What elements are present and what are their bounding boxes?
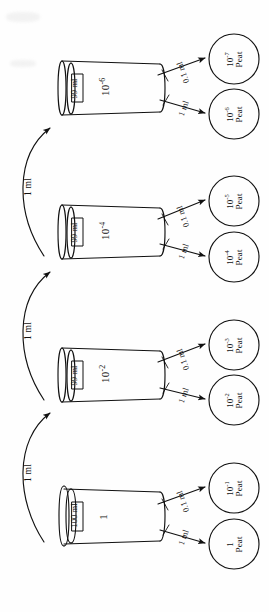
dish-label-6: 10-5 Peat bbox=[226, 180, 245, 222]
dish-label-3: 10-2 Peat bbox=[226, 379, 245, 421]
dish-label-2: 10-1 Peat bbox=[226, 467, 245, 509]
transfer-label-3: 1 ml bbox=[24, 178, 34, 196]
flask-concentration-1: 1 bbox=[98, 514, 110, 520]
dish-label-4: 10-3 Peat bbox=[226, 324, 245, 366]
serial-dilution-figure: 10-6 99 ml 10-4 99 ml 10-2 99 ml 1 100 m… bbox=[0, 0, 269, 612]
flask-concentration-2: 10-2 bbox=[100, 365, 112, 383]
flask-concentration-4: 10-6 bbox=[100, 78, 112, 96]
diagram-canvas bbox=[0, 0, 269, 612]
transfer-label-2: 1 ml bbox=[24, 322, 34, 340]
dish-label-1: 1 Peat bbox=[226, 523, 245, 565]
dish-label-8: 10-7 Peat bbox=[226, 38, 245, 80]
flask-volume-2: 99 ml bbox=[70, 365, 79, 385]
flask-volume-4: 99 ml bbox=[70, 78, 79, 98]
dish-label-7: 10-6 Peat bbox=[226, 93, 245, 135]
flask-volume-3: 99 ml bbox=[70, 222, 79, 242]
dish-label-5: 10-4 Peat bbox=[226, 236, 245, 278]
flask-concentration-3: 10-4 bbox=[100, 222, 112, 240]
transfer-label-1: 1 ml bbox=[24, 464, 34, 482]
flask-volume-1: 100 ml bbox=[70, 503, 79, 527]
